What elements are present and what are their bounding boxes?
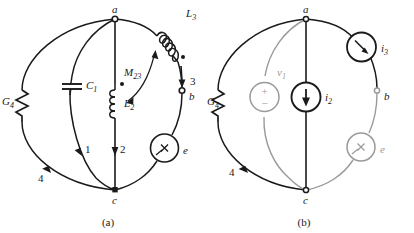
panel-b-caption: (b) [298,216,311,229]
current-source-i3-label: i3 [381,42,388,57]
panel-a-caption: (a) [102,216,115,229]
panel-a: L3 3 e C1 [0,0,207,233]
element-e-symbol [151,134,179,162]
node-b-label: b [384,90,390,102]
branch-label-2-arrow-icon [112,147,119,156]
branch-1-arc [70,19,115,190]
current-source-i2-label: i2 [325,91,332,106]
element-e-label: e [183,144,188,156]
branch-label-4-arrow-icon [239,166,248,173]
voltage-source-v1-label: v1 [277,66,286,81]
m23-arrowhead-upper-icon [152,50,159,59]
node-b-terminal [179,88,185,94]
inductor-l2-dot-icon [120,82,124,86]
node-c-terminal [303,187,308,192]
branch-label-1-arrow-icon [75,148,82,156]
voltage-source-v1-symbol: + − [250,83,279,112]
inductor-l3-label: L3 [185,7,196,22]
capacitor-c1-label: C1 [86,79,97,94]
node-a-terminal [112,16,118,22]
conductance-g4-label: G4 [2,95,14,110]
node-c-label: c [303,194,308,206]
node-c-terminal [112,187,117,192]
element-e-label: e [380,143,385,155]
figure-container: L3 3 e C1 [0,0,414,233]
current-source-i3-symbol [347,33,376,62]
inductor-l3-symbol [157,32,178,62]
branch-label-3: 3 [190,75,196,87]
node-a-label: a [112,3,118,15]
node-c-label: c [112,194,117,206]
element-e-symbol [347,133,375,161]
conductance-g4-symbol [16,90,28,122]
inductor-l2-symbol [110,84,115,118]
branch-label-4: 4 [229,166,235,178]
voltage-source-v1-plus-sign: + [261,85,267,97]
mutual-inductance-m23-label: M23 [123,66,141,81]
capacitor-c1-symbol [62,76,82,95]
node-b-terminal [374,88,379,93]
branch-label-2: 2 [120,143,126,155]
voltage-source-v1-minus-sign: − [261,97,267,109]
branch-label-4: 4 [38,172,44,184]
node-b-label: b [189,90,195,102]
current-source-i2-symbol [292,83,321,112]
panel-b: G4 4 i3 e [207,0,414,233]
node-a-terminal [303,16,308,21]
inductor-l3-dot-icon [181,55,185,59]
branch-4-left-arc [22,19,115,190]
branch-label-1: 1 [85,143,91,155]
node-a-label: a [303,3,309,15]
